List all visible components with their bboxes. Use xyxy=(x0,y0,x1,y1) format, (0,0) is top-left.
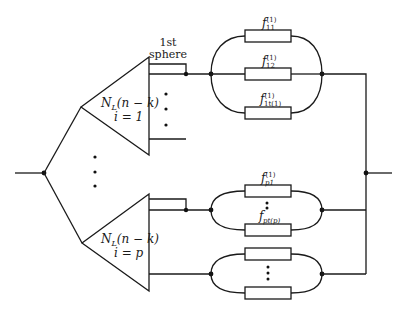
wire-to-block-p xyxy=(44,173,82,243)
block-p-bracket xyxy=(149,199,186,210)
first-sphere-bracket xyxy=(149,64,186,74)
wire-to-block-1 xyxy=(44,107,81,173)
svg-text:1t(1): 1t(1) xyxy=(264,100,281,108)
output-bus-top xyxy=(322,74,366,274)
svg-text:11: 11 xyxy=(266,24,275,32)
element-extra-2 xyxy=(245,287,291,299)
element-f1t1 xyxy=(245,107,291,119)
block-1-label: NL(n − k) i = 1 xyxy=(100,96,159,124)
output-junction xyxy=(364,171,369,176)
svg-text:12: 12 xyxy=(266,62,275,70)
reliability-diagram: NL(n − k) i = 1 1st sphere f(1) 11 f(1) … xyxy=(0,0,411,314)
block-p-junction xyxy=(184,208,188,212)
group-p-labels: f(1) p1 f pt(p) xyxy=(258,171,281,225)
output-ellipsis-dot xyxy=(164,107,167,110)
output-ellipsis-dot xyxy=(164,123,167,126)
svg-text:pt(p): pt(p) xyxy=(263,217,281,225)
ellipsis-dot xyxy=(93,184,96,187)
element-fptp xyxy=(245,224,291,236)
ellipsis-dot xyxy=(93,170,96,173)
svg-text:i = 1: i = 1 xyxy=(114,110,143,124)
block-p-label: NL(n − k) i = p xyxy=(100,232,159,260)
element-extra-1 xyxy=(245,248,291,260)
output-ellipsis-dot xyxy=(164,92,167,95)
ellipsis-dot xyxy=(93,155,96,158)
first-sphere-junction xyxy=(184,72,188,76)
svg-text:i = p: i = p xyxy=(114,246,144,260)
group-extra-network xyxy=(209,248,366,299)
group-p-network xyxy=(209,185,366,236)
first-sphere-label-line2: sphere xyxy=(149,48,187,61)
svg-text:p1: p1 xyxy=(265,179,274,187)
